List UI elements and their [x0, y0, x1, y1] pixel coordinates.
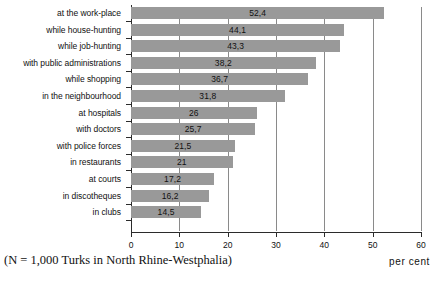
x-axis-tick-label: 60 — [406, 240, 436, 250]
bar-row: 44,1 — [131, 24, 421, 36]
bar-row: 17,2 — [131, 173, 421, 185]
category-label: at the work-place — [57, 7, 121, 19]
x-axis-tick-label: 30 — [261, 240, 291, 250]
category-axis-labels: at the work-placewhile house-huntingwhil… — [0, 7, 126, 231]
x-axis-tick — [179, 232, 180, 237]
category-label: with doctors — [76, 123, 121, 135]
bar-value-label: 43,3 — [131, 40, 340, 52]
bar-row: 36,7 — [131, 73, 421, 85]
x-axis-tick — [131, 232, 132, 237]
x-axis-tick-label: 50 — [358, 240, 388, 250]
bar-value-label: 26 — [131, 107, 257, 119]
x-axis-unit-label: per cent — [389, 256, 430, 267]
bar-row: 31,8 — [131, 90, 421, 102]
x-axis-tick — [373, 232, 374, 237]
bar-value-label: 25,7 — [131, 123, 255, 135]
x-axis-tick-label: 10 — [164, 240, 194, 250]
y-axis-tick — [126, 204, 131, 205]
gridline-60 — [421, 7, 422, 231]
bar-value-label: 16,2 — [131, 190, 209, 202]
x-axis-tick-label: 20 — [213, 240, 243, 250]
y-axis-tick — [126, 121, 131, 122]
y-axis-tick — [126, 38, 131, 39]
bar-rows: 52,444,143,338,236,731,82625,721,52117,2… — [131, 7, 421, 231]
bar-value-label: 17,2 — [131, 173, 214, 185]
category-label: at courts — [89, 173, 121, 185]
category-label: with police forces — [57, 140, 121, 152]
bar-row: 16,2 — [131, 190, 421, 202]
y-axis-tick — [126, 71, 131, 72]
x-axis-tick — [421, 232, 422, 237]
category-label: in discotheques — [63, 190, 121, 202]
bar-row: 21 — [131, 156, 421, 168]
bar-row: 26 — [131, 107, 421, 119]
bar-row: 21,5 — [131, 140, 421, 152]
bar-value-label: 31,8 — [131, 90, 285, 102]
chart-footnote: (N = 1,000 Turks in North Rhine-Westphal… — [4, 253, 232, 268]
category-label: in restaurants — [70, 156, 121, 168]
category-label: at hospitals — [79, 107, 121, 119]
category-label: with public administrations — [23, 57, 121, 69]
bar-value-label: 21,5 — [131, 140, 235, 152]
bar-row: 14,5 — [131, 206, 421, 218]
bar-row: 25,7 — [131, 123, 421, 135]
bar-row: 52,4 — [131, 7, 421, 19]
y-axis-tick — [126, 220, 131, 221]
y-axis-tick — [126, 137, 131, 138]
bar-value-label: 21 — [131, 156, 233, 168]
category-label: in the neighbourhood — [42, 90, 121, 102]
bar-value-label: 38,2 — [131, 57, 316, 69]
bar-value-label: 36,7 — [131, 73, 308, 85]
bar-row: 38,2 — [131, 57, 421, 69]
category-label: while house-hunting — [46, 24, 121, 36]
y-axis-tick — [126, 154, 131, 155]
x-axis-tick-label: 40 — [309, 240, 339, 250]
x-axis-tick — [276, 232, 277, 237]
y-axis-tick — [126, 104, 131, 105]
y-axis-tick — [126, 87, 131, 88]
x-axis-tick-label: 0 — [116, 240, 146, 250]
category-label: while job-hunting — [58, 40, 121, 52]
bar-row: 43,3 — [131, 40, 421, 52]
bar-value-label: 52,4 — [131, 7, 384, 19]
x-axis-tick — [324, 232, 325, 237]
category-label: while shopping — [65, 73, 121, 85]
bar-chart: at the work-placewhile house-huntingwhil… — [0, 0, 438, 283]
category-label: in clubs — [93, 206, 121, 218]
y-axis-tick — [126, 54, 131, 55]
bar-value-label: 44,1 — [131, 24, 344, 36]
bar-value-label: 14,5 — [131, 206, 201, 218]
plot-area: 52,444,143,338,236,731,82625,721,52117,2… — [131, 7, 421, 231]
y-axis-tick — [126, 21, 131, 22]
y-axis-tick — [126, 170, 131, 171]
x-axis-tick — [228, 232, 229, 237]
y-axis-tick — [126, 187, 131, 188]
